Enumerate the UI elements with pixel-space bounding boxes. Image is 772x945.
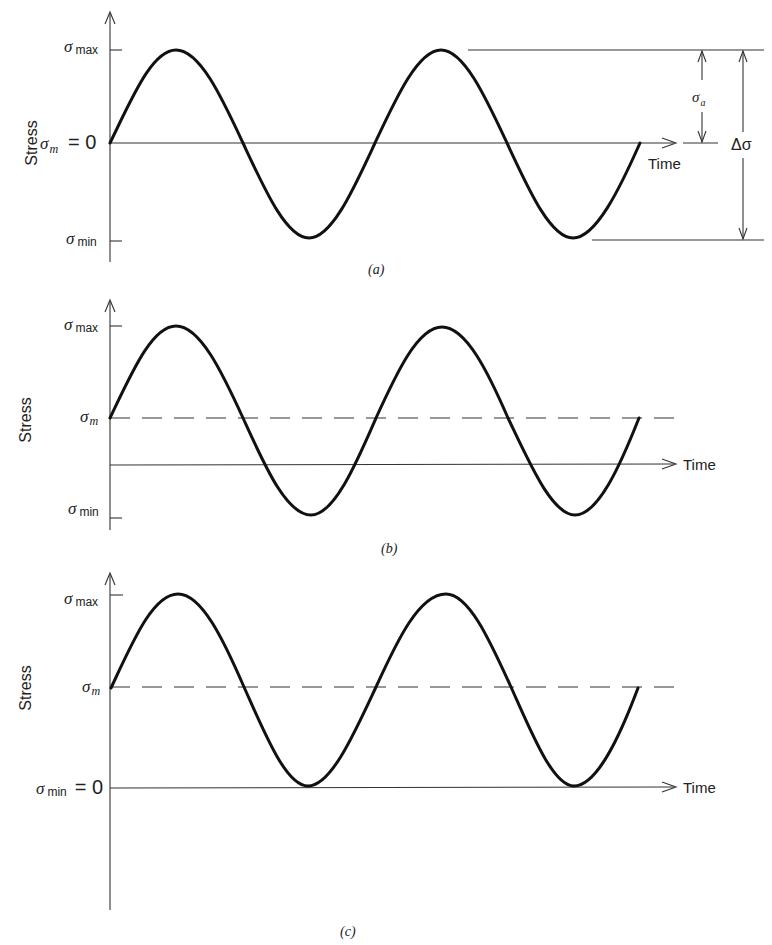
stress-curve-b <box>110 326 639 515</box>
label-sigma-min-c: σmin= 0 <box>36 776 103 799</box>
label-sigma-m-c: σm <box>82 677 100 698</box>
stress-curve-c <box>111 594 638 786</box>
label-sigma-max-b: σmax <box>64 315 98 335</box>
label-sigma-max-c: σmax <box>64 589 98 609</box>
label-sigma-m-b: σm <box>80 407 98 428</box>
time-axis-b <box>110 464 674 465</box>
x-axis-title-b: Time <box>683 456 716 473</box>
y-axis-title-b: Stress <box>17 397 34 442</box>
label-delta-sigma: Δσ <box>731 136 752 153</box>
caption-a: (a) <box>368 262 385 278</box>
y-axis-title-c: Stress <box>17 665 34 710</box>
time-axis-c <box>110 787 674 788</box>
caption-c: (c) <box>340 924 356 940</box>
stress-cycle-figure: σmax σm= 0 σmin Stress Time σa Δσ (a) σm… <box>0 0 772 945</box>
x-axis-title-a: Time <box>648 155 681 172</box>
label-sigma-min-b: σmin <box>68 499 99 519</box>
panel-c: σmax σm σmin= 0 Stress Time (c) <box>17 573 716 940</box>
label-sigma-max-a: σmax <box>64 37 98 57</box>
stress-curve-a <box>110 50 640 238</box>
y-axis-title-a: Stress <box>23 120 40 165</box>
label-sigma-m-a: σm= 0 <box>40 131 96 156</box>
caption-b: (b) <box>381 541 398 557</box>
panel-a: σmax σm= 0 σmin Stress Time σa Δσ (a) <box>23 12 764 278</box>
label-sigma-a: σa <box>692 89 705 108</box>
x-axis-title-c: Time <box>683 779 716 796</box>
panel-b: σmax σm σmin Stress Time (b) <box>17 300 716 557</box>
label-sigma-min-a: σmin <box>66 229 97 249</box>
